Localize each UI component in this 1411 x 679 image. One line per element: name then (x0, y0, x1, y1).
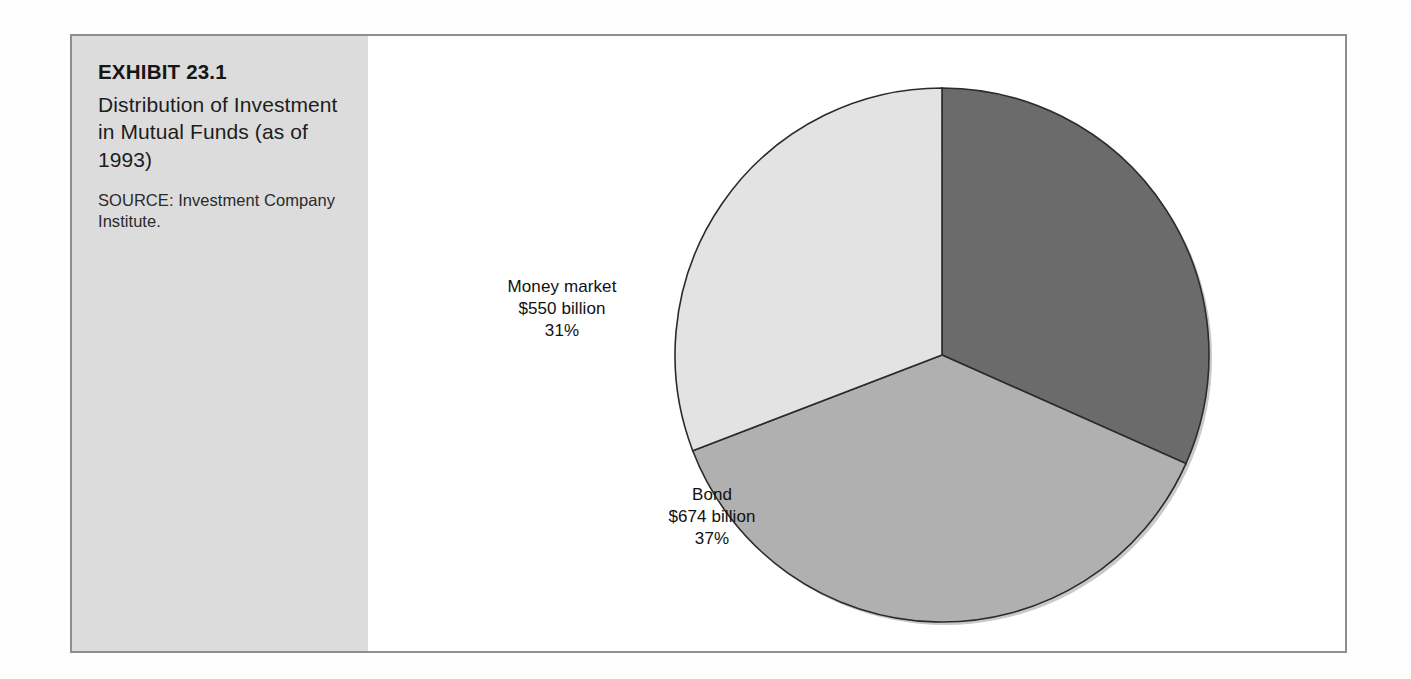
money-market-label-percent: 31% (472, 320, 652, 342)
bond-slice-label: Bond $674 billion 37% (622, 484, 802, 549)
exhibit-number: EXHIBIT 23.1 (98, 60, 342, 84)
chart-area: Money market $550 billion 31% Bond $674 … (368, 36, 1345, 651)
exhibit-title: Distribution of Investment in Mutual Fun… (98, 91, 342, 174)
money-market-label-name: Money market (472, 276, 652, 298)
figure-root: EXHIBIT 23.1 Distribution of Investment … (0, 0, 1411, 679)
bond-label-amount: $674 billion (622, 506, 802, 528)
pie-chart-svg (368, 36, 1349, 651)
caption-panel: EXHIBIT 23.1 Distribution of Investment … (72, 36, 368, 651)
money-market-slice-label: Money market $550 billion 31% (472, 276, 652, 341)
exhibit-frame: EXHIBIT 23.1 Distribution of Investment … (70, 34, 1347, 653)
bond-label-name: Bond (622, 484, 802, 506)
bond-label-percent: 37% (622, 528, 802, 550)
pie-chart: Money market $550 billion 31% Bond $674 … (368, 36, 1345, 651)
exhibit-source: SOURCE: Investment Company Institute. (98, 190, 342, 233)
money-market-label-amount: $550 billion (472, 298, 652, 320)
